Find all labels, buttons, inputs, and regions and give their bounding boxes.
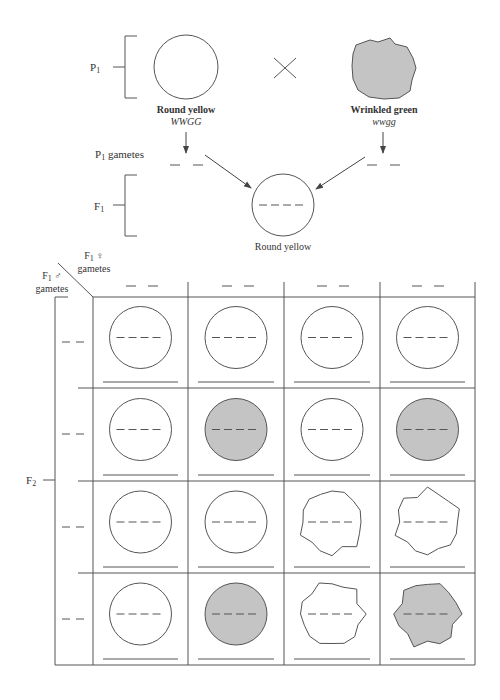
p1-label: P1 [90, 61, 100, 77]
parent2-genotype: wwgg [372, 116, 395, 128]
male-gametes-label: F1 ♂gametes [36, 271, 69, 294]
parent-wrinkled-green-pea [352, 38, 416, 99]
p1-bracket [113, 36, 137, 98]
parent-round-yellow-pea [154, 35, 218, 99]
parent1-genotype: WWGG [170, 116, 201, 128]
f2-pea-wrinkled-yellow [395, 487, 459, 555]
arrow-gamete1-to-f1 [205, 155, 251, 188]
f2-pea-wrinkled-green [394, 584, 462, 647]
f1-bracket [113, 175, 137, 236]
f2-bracket [43, 297, 68, 665]
female-gametes-label: F1 ♀gametes [78, 251, 111, 274]
p1-gametes-label: P1 gametes [95, 148, 144, 164]
parent2-phenotype: Wrinkled green [350, 104, 417, 116]
f2-label: F2 [26, 474, 36, 490]
f2-pea-wrinkled-yellow [301, 583, 367, 644]
arrow-gamete2-to-f1 [316, 157, 365, 189]
f2-pea-wrinkled-yellow [300, 491, 361, 556]
f1-label: F1 [94, 200, 104, 216]
cross-symbol [274, 58, 296, 78]
cross-diagram [0, 0, 500, 700]
f1-phenotype: Round yellow [255, 241, 311, 253]
parent1-phenotype: Round yellow [157, 104, 216, 116]
